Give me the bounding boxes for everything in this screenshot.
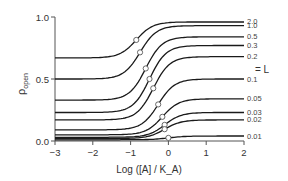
x-tick-label: −1: [125, 147, 136, 158]
midpoint-marker: [160, 114, 165, 119]
y-tick-label: 1.0: [36, 12, 49, 23]
series-labels: 2.01.00.50.30.20.10.050.030.020.01: [247, 17, 262, 140]
series-label: 0.1: [247, 75, 257, 84]
curve-L-1.0: [55, 26, 244, 79]
x-tick-label: −3: [50, 147, 61, 158]
midpoint-marker: [156, 102, 161, 107]
series-label: 0.05: [247, 94, 262, 103]
curve-L-2.0: [55, 22, 244, 58]
l-annotation: = L: [255, 64, 270, 75]
y-tick-label: 0.0: [36, 136, 49, 147]
midpoint-marker: [137, 50, 142, 55]
curve-L-0.2: [55, 57, 244, 120]
midpoint-marker: [134, 37, 139, 42]
midpoint-marker: [162, 127, 167, 132]
chart: 0.00.51.0−3−2−1012 2.01.00.50.30.20.10.0…: [0, 0, 288, 181]
svg-text:ρopen: ρopen: [15, 73, 30, 95]
series-label: 0.2: [247, 52, 257, 61]
curve-L-0.1: [55, 79, 244, 130]
series-label: 0.5: [247, 32, 257, 41]
curve-L-0.5: [55, 37, 244, 100]
x-tick-label: 1: [204, 147, 209, 158]
midpoint-marker: [151, 86, 156, 91]
midpoint-marker: [166, 135, 171, 140]
series-label: 0.02: [247, 115, 262, 124]
x-axis-label: Log ([A] / K_A): [116, 164, 182, 175]
series-label: 1.0: [247, 21, 257, 30]
midpoint-marker: [143, 66, 148, 71]
x-tick-label: 2: [241, 147, 246, 158]
x-tick-label: 0: [166, 147, 171, 158]
series-label: 0.01: [247, 132, 262, 141]
series-label: 0.3: [247, 41, 257, 50]
y-axis-label: ρopen: [15, 73, 30, 95]
y-tick-label: 0.5: [36, 74, 49, 85]
midpoint-marker: [147, 76, 152, 81]
x-tick-label: −2: [87, 147, 98, 158]
